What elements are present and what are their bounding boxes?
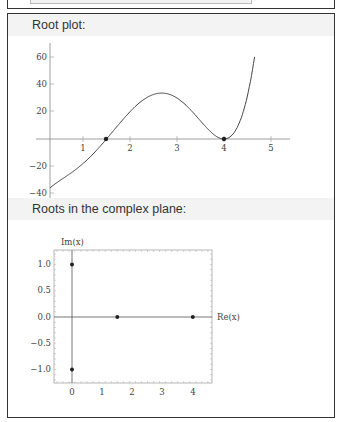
svg-text:0.0: 0.0 (37, 312, 51, 322)
svg-text:4: 4 (190, 387, 195, 397)
svg-text:0: 0 (69, 387, 74, 397)
svg-text:−1.0: −1.0 (30, 364, 51, 374)
svg-text:−0.5: −0.5 (30, 338, 51, 348)
complex-root-point (70, 263, 74, 267)
complex-root-point (70, 368, 74, 372)
svg-text:1.0: 1.0 (37, 259, 51, 269)
svg-text:2: 2 (129, 387, 134, 397)
real-axis-label: Re(x) (217, 312, 240, 322)
svg-text:1: 1 (99, 387, 104, 397)
complex-plane-chart: 0 1 2 3 4 1.0 0.5 0.0 −0.5 −1.0 Im(x) Re… (0, 0, 347, 422)
svg-text:0.5: 0.5 (37, 285, 51, 295)
complex-root-point (191, 315, 195, 319)
complex-root-point (115, 315, 119, 319)
svg-text:3: 3 (159, 387, 164, 397)
complex-frame (54, 250, 212, 383)
imag-axis-label: Im(x) (61, 237, 84, 247)
